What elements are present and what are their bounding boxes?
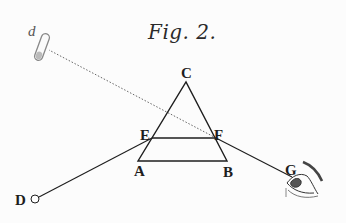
label-a: A xyxy=(134,164,145,179)
label-d-image: d xyxy=(28,24,36,39)
label-b: B xyxy=(223,165,233,180)
label-e: E xyxy=(140,128,150,143)
prism-diagram xyxy=(0,0,346,223)
virtual-image-capsule xyxy=(33,32,50,61)
label-f: F xyxy=(214,128,223,143)
label-d-object: D xyxy=(15,193,26,208)
label-g: G xyxy=(285,163,297,178)
apparent-ray-fd xyxy=(49,50,216,138)
prism-triangle xyxy=(138,82,227,161)
figure-canvas: Fig. 2. C E F A B D G d xyxy=(0,0,346,223)
label-c: C xyxy=(181,66,192,81)
object-d-circle xyxy=(31,195,39,203)
